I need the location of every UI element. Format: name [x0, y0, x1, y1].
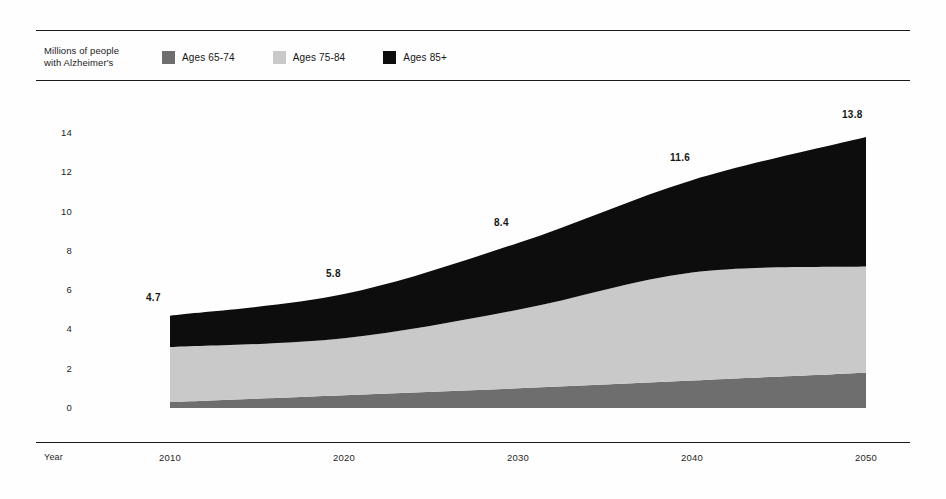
- x-axis-tick-label: 2020: [314, 452, 374, 463]
- y-axis-tick-label: 4: [38, 323, 72, 334]
- y-axis-tick-label: 10: [38, 206, 72, 217]
- x-axis-tick-label: 2040: [662, 452, 722, 463]
- x-axis-tick-label: 2010: [140, 452, 200, 463]
- data-label-total: 13.8: [842, 109, 863, 120]
- chart-page: Millions of people with Alzheimer's Ages…: [0, 0, 946, 499]
- data-label-total: 4.7: [146, 292, 161, 303]
- x-axis-title: Year: [44, 452, 63, 462]
- y-axis-tick-label: 8: [38, 245, 72, 256]
- y-axis-tick-label: 6: [38, 284, 72, 295]
- data-label-total: 11.6: [670, 152, 690, 163]
- x-axis-tick-label: 2030: [488, 452, 548, 463]
- y-axis-tick-label: 14: [38, 127, 72, 138]
- chart-plot-area: [0, 0, 946, 499]
- data-label-total: 5.8: [326, 268, 341, 279]
- data-label-total: 8.4: [494, 217, 509, 228]
- x-axis-line: [36, 442, 910, 443]
- y-axis-tick-label: 2: [38, 363, 72, 374]
- stacked-area-chart: 02468101214201020202030204020504.75.88.4…: [0, 0, 946, 499]
- y-axis-tick-label: 0: [38, 402, 72, 413]
- y-axis-tick-label: 12: [38, 166, 72, 177]
- x-axis-tick-label: 2050: [836, 452, 896, 463]
